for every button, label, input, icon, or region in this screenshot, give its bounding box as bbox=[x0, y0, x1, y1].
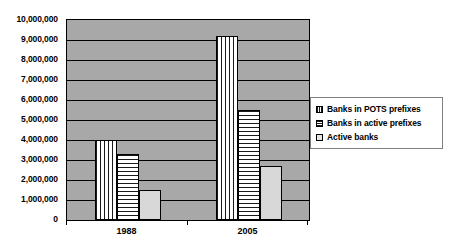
bar-chart: 01,000,0002,000,0003,000,0004,000,0005,0… bbox=[0, 0, 452, 251]
y-axis-tick-label: 0 bbox=[53, 214, 58, 224]
x-axis-tick-mark bbox=[187, 220, 188, 225]
legend-item-label: Active banks bbox=[327, 132, 378, 142]
bar bbox=[260, 166, 282, 220]
y-axis-tick-label: 9,000,000 bbox=[21, 34, 58, 44]
x-axis: 19882005 bbox=[66, 226, 308, 242]
plot-area bbox=[66, 19, 310, 221]
y-axis-tick-label: 6,000,000 bbox=[21, 94, 58, 104]
bar bbox=[238, 110, 260, 220]
x-axis-tick-mark bbox=[66, 220, 67, 225]
y-axis-tick-label: 4,000,000 bbox=[21, 134, 58, 144]
y-axis-tick-label: 2,000,000 bbox=[21, 174, 58, 184]
x-axis-tick-mark bbox=[307, 220, 308, 225]
y-axis-tick-label: 7,000,000 bbox=[21, 74, 58, 84]
y-axis-tick-label: 3,000,000 bbox=[21, 154, 58, 164]
y-axis-tick-label: 5,000,000 bbox=[21, 114, 58, 124]
bar bbox=[117, 154, 139, 220]
x-axis-tick-label: 2005 bbox=[237, 226, 257, 236]
bar bbox=[139, 190, 161, 220]
x-axis-tick-label: 1988 bbox=[116, 226, 136, 236]
bars-layer bbox=[67, 20, 309, 220]
y-axis-tick-label: 8,000,000 bbox=[21, 54, 58, 64]
y-axis-tick-label: 1,000,000 bbox=[21, 194, 58, 204]
legend: Banks in POTS prefixes Banks in active p… bbox=[310, 97, 443, 149]
y-axis: 01,000,0002,000,0003,000,0004,000,0005,0… bbox=[0, 0, 62, 251]
legend-swatch-solid bbox=[316, 134, 323, 141]
legend-item-label: Banks in POTS prefixes bbox=[327, 104, 421, 114]
legend-item[interactable]: Active banks bbox=[316, 130, 438, 144]
legend-swatch-horizontal-stripes bbox=[316, 120, 323, 127]
legend-item[interactable]: Banks in POTS prefixes bbox=[316, 102, 438, 116]
legend-item-label: Banks in active prefixes bbox=[327, 118, 421, 128]
legend-swatch-vertical-stripes bbox=[316, 106, 323, 113]
y-axis-tick-label: 10,000,000 bbox=[16, 14, 58, 24]
bar bbox=[216, 36, 238, 220]
bar bbox=[95, 140, 117, 220]
legend-item[interactable]: Banks in active prefixes bbox=[316, 116, 438, 130]
